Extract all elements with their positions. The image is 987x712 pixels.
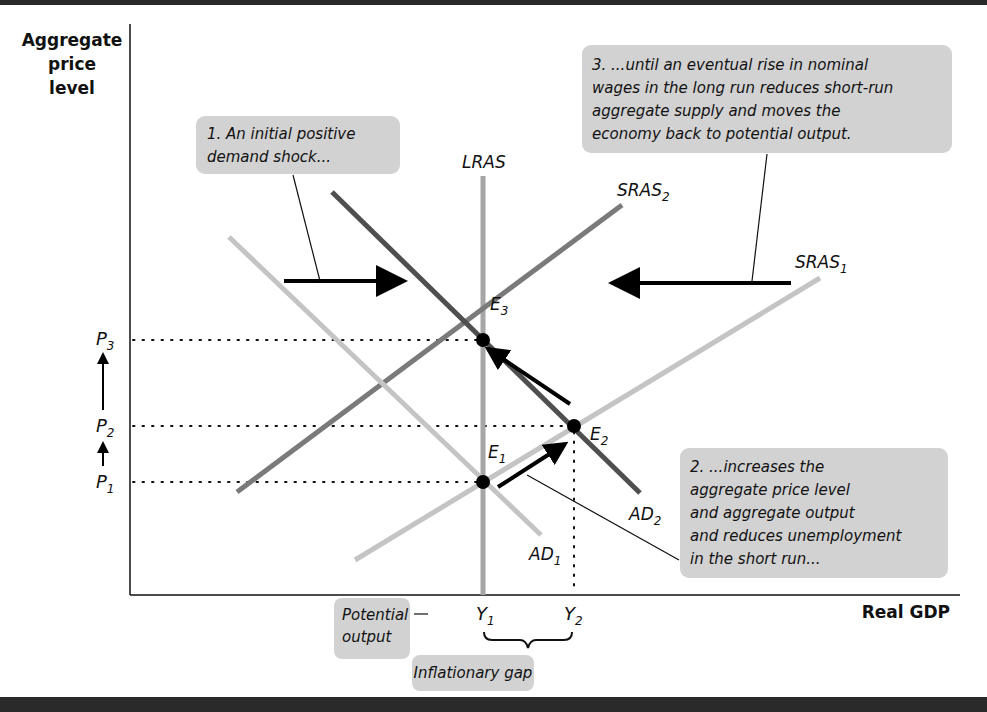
svg-text:AD2: AD2 xyxy=(628,504,661,528)
svg-text:E1: E1 xyxy=(488,442,506,466)
svg-text:SRAS2: SRAS2 xyxy=(617,180,670,204)
svg-text:1. An initial positive: 1. An initial positive xyxy=(207,125,355,143)
note-1-demand-shock: 1. An initial positive demand shock... xyxy=(196,116,400,281)
p1-label: P1 xyxy=(96,471,115,496)
svg-text:Potential: Potential xyxy=(342,606,409,624)
potential-output-note: Potential output xyxy=(334,598,428,659)
as-ad-diagram: Aggregate price level Real GDP LRAS SRAS… xyxy=(0,0,987,712)
sras1-label: SRAS1 xyxy=(795,252,848,276)
svg-text:output: output xyxy=(342,628,393,646)
x-axis-title: Real GDP xyxy=(862,602,950,622)
svg-text:aggregate price level: aggregate price level xyxy=(690,481,851,499)
lras-label: LRAS xyxy=(462,152,506,172)
y-axis-title: Aggregate price level xyxy=(22,30,123,98)
e3-point xyxy=(476,333,490,347)
y1-label: Y1 xyxy=(476,603,495,628)
svg-text:Y2: Y2 xyxy=(564,603,583,628)
bottom-border xyxy=(0,697,987,712)
e1-label: E1 xyxy=(488,442,506,466)
note-3-long-run: 3. ...until an eventual rise in nominal … xyxy=(582,45,952,281)
svg-text:AD1: AD1 xyxy=(528,544,561,568)
y-axis-title-line3: level xyxy=(49,78,95,98)
ad2-label: AD2 xyxy=(628,504,661,528)
svg-text:E3: E3 xyxy=(490,294,508,318)
y2-label: Y2 xyxy=(564,603,583,628)
sras2-curve xyxy=(237,205,622,492)
svg-text:and aggregate output: and aggregate output xyxy=(690,504,856,522)
e1-point xyxy=(476,475,490,489)
p3-label: P3 xyxy=(96,328,115,353)
inflationary-gap-note: Inflationary gap xyxy=(412,655,534,691)
svg-text:P3: P3 xyxy=(96,328,115,353)
y-axis-title-line1: Aggregate xyxy=(22,30,123,50)
ad1-label: AD1 xyxy=(528,544,561,568)
e3-label: E3 xyxy=(490,294,508,318)
note-2-short-run: 2. ...increases the aggregate price leve… xyxy=(527,448,948,578)
svg-text:2. ...increases the: 2. ...increases the xyxy=(690,458,824,476)
p2-label: P2 xyxy=(96,415,115,440)
svg-text:SRAS1: SRAS1 xyxy=(795,252,848,276)
svg-text:economy back to potential outp: economy back to potential output. xyxy=(592,125,852,143)
inflationary-gap-brace xyxy=(484,632,572,648)
svg-text:wages in the long run reduces: wages in the long run reduces short-run xyxy=(592,79,893,97)
svg-text:Inflationary gap: Inflationary gap xyxy=(414,664,533,682)
svg-text:in the short run...: in the short run... xyxy=(690,550,821,568)
svg-text:P2: P2 xyxy=(96,415,115,440)
svg-text:Y1: Y1 xyxy=(476,603,495,628)
e2-point xyxy=(567,419,581,433)
e2-to-e3-arrow xyxy=(488,349,570,404)
y-axis-title-line2: price xyxy=(48,54,96,74)
svg-text:3. ...until an eventual rise i: 3. ...until an eventual rise in nominal xyxy=(592,56,869,74)
svg-text:P1: P1 xyxy=(96,471,115,496)
svg-text:demand shock...: demand shock... xyxy=(207,148,331,166)
svg-text:and reduces unemployment: and reduces unemployment xyxy=(690,527,902,545)
svg-text:aggregate supply and moves the: aggregate supply and moves the xyxy=(592,102,840,120)
sras2-label: SRAS2 xyxy=(617,180,670,204)
